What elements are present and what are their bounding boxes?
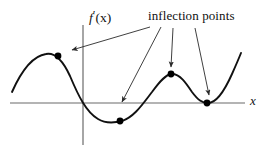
derivative-curve [12,53,241,123]
inflection-point-markers [55,53,211,125]
axes-group [10,25,245,145]
annotation-arrow [171,28,173,67]
function-argument: (x) [95,10,111,25]
annotation-arrow [122,27,161,102]
inflection-point-dot [117,118,124,125]
inflection-point-dot [168,71,175,78]
annotation-arrows [72,27,209,102]
annotation-arrow [72,27,150,50]
inflection-point-dot [204,100,211,107]
figure-canvas: inflection points f′(x) x [0,0,275,152]
annotation-arrow [195,28,209,95]
y-axis-function-label: f′(x) [89,9,111,24]
inflection-points-label: inflection points [148,9,235,22]
x-axis-label: x [250,94,256,107]
inflection-point-dot [55,53,62,60]
